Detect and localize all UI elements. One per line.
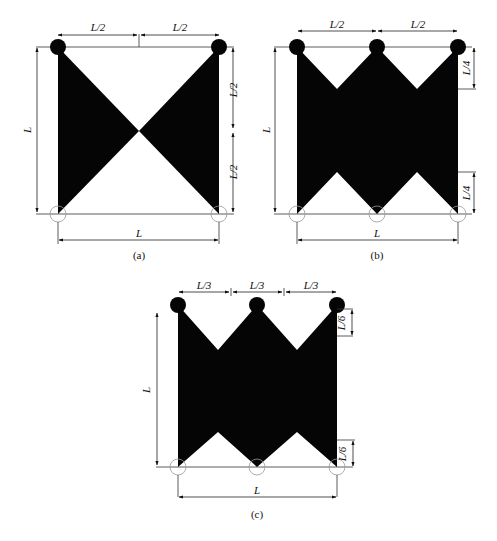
dim-label-right-2: L/4 <box>460 185 472 201</box>
panel-a: L/2 L/2 L L/2 L/2 L (a) <box>21 21 239 262</box>
dim-label-right-1: L/4 <box>460 60 472 76</box>
caption-a: (a) <box>133 249 146 262</box>
left-triangle <box>58 47 139 214</box>
dim-label-top-1: L/2 <box>329 18 345 30</box>
dim-label-left: L <box>260 127 272 134</box>
caption-c: (c) <box>251 508 264 521</box>
dim-label-right-2: L/6 <box>336 446 348 462</box>
dim-label-right-1: L/2 <box>227 82 239 98</box>
dim-label-top-2: L/2 <box>172 21 188 33</box>
panel-c: L/3 L/3 L/3 L L/6 L/6 L (c) <box>140 279 355 521</box>
dim-label-top-2: L/3 <box>249 279 265 291</box>
pinned-support-icon <box>249 297 265 313</box>
panel-b: L/2 L/2 L L/4 L/4 L (b) <box>260 18 476 262</box>
pinned-support-icon <box>211 39 227 55</box>
dim-label-left: L <box>21 127 33 134</box>
dim-label-bottom: L <box>253 484 260 496</box>
pinned-support-icon <box>329 297 345 313</box>
dim-label-top-1: L/3 <box>196 279 212 291</box>
pinned-support-icon <box>450 39 466 55</box>
dim-label-top-3: L/3 <box>303 279 319 291</box>
dim-label-top-2: L/2 <box>410 18 426 30</box>
dim-label-top-1: L/2 <box>90 21 106 33</box>
right-triangle <box>139 47 219 214</box>
zigzag-domain <box>178 305 337 467</box>
pinned-support-icon <box>50 39 66 55</box>
pinned-support-icon <box>170 297 186 313</box>
dim-label-bottom: L <box>135 227 142 239</box>
pinned-support-icon <box>369 39 385 55</box>
dim-label-right-1: L/6 <box>335 315 347 331</box>
pinned-support-icon <box>289 39 305 55</box>
dim-label-bottom: L <box>373 227 380 239</box>
caption-b: (b) <box>371 249 384 262</box>
dim-label-left: L <box>140 387 152 394</box>
dim-label-right-2: L/2 <box>227 164 239 180</box>
figure-canvas: L/2 L/2 L L/2 L/2 L (a) L/2 L/2 <box>0 0 497 541</box>
zigzag-domain <box>297 47 458 214</box>
